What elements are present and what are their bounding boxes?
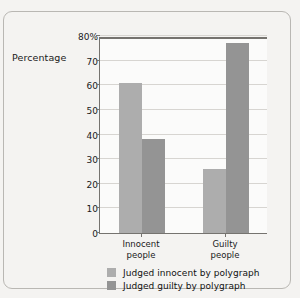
legend-swatch	[107, 268, 116, 277]
y-axis-tick-label: 50	[61, 106, 98, 116]
x-axis-category-labels: InnocentpeopleGuiltypeople	[99, 237, 267, 263]
y-axis-tick-label: 30	[61, 155, 98, 165]
bar	[142, 139, 165, 233]
category-label-line: Guilty	[185, 239, 265, 250]
y-axis-tick-label: 80%	[61, 32, 98, 42]
bar	[226, 43, 249, 233]
x-axis-category-label: Guiltypeople	[185, 239, 265, 260]
x-axis-tick-mark	[225, 234, 226, 237]
y-axis-tick-label: 70	[61, 57, 98, 67]
y-axis-tick-label: 20	[61, 180, 98, 190]
x-axis-tick-mark	[141, 234, 142, 237]
y-axis-tick-label: 10	[61, 204, 98, 214]
plot-area	[99, 37, 267, 234]
legend-swatch	[107, 281, 116, 290]
category-label-line: Innocent	[101, 239, 181, 250]
chart-card: Percentage 01020304050607080% Innocentpe…	[3, 11, 291, 289]
legend-item: Judged guilty by polygraph	[107, 279, 260, 292]
y-axis-title: Percentage	[12, 52, 66, 63]
gridline	[100, 35, 267, 36]
bar	[203, 169, 226, 233]
legend-label: Judged innocent by polygraph	[123, 268, 260, 278]
x-axis-category-label: Innocentpeople	[101, 239, 181, 260]
bars-container	[100, 39, 267, 233]
y-axis-tick-mark	[96, 35, 100, 36]
chart-legend: Judged innocent by polygraphJudged guilt…	[107, 266, 260, 292]
y-axis-tick-labels: 01020304050607080%	[61, 53, 98, 235]
y-axis-tick-label: 60	[61, 81, 98, 91]
y-axis-tick-label: 40	[61, 131, 98, 141]
legend-label: Judged guilty by polygraph	[123, 281, 246, 291]
bar	[119, 83, 142, 233]
category-label-line: people	[101, 250, 181, 261]
y-axis-tick-label: 0	[61, 229, 98, 239]
category-label-line: people	[185, 250, 265, 261]
legend-item: Judged innocent by polygraph	[107, 266, 260, 279]
